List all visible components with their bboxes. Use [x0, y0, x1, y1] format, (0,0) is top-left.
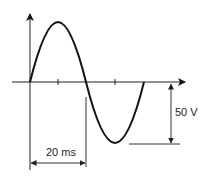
amplitude-label: 50 V — [175, 106, 198, 118]
diagram-canvas — [0, 0, 206, 179]
period-label: 20 ms — [46, 146, 76, 158]
sine-wave-diagram: 50 V 20 ms — [0, 0, 206, 179]
